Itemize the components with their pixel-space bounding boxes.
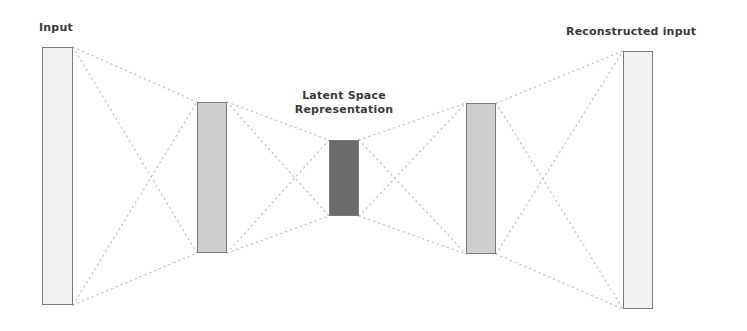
connector-line [227, 216, 329, 253]
connector-line [227, 102, 329, 216]
latent-layer [329, 140, 359, 216]
connector-line [73, 47, 197, 253]
connector-line [496, 254, 623, 309]
connector-line [359, 216, 466, 254]
output-layer [623, 51, 653, 309]
connector-line [359, 103, 466, 216]
connector-line [73, 47, 197, 102]
connector-line [496, 51, 623, 254]
encoder-hidden-layer [197, 102, 227, 253]
input-layer [42, 47, 73, 305]
reconstructed-input-label: Reconstructed input [566, 25, 696, 39]
connector-line [496, 51, 623, 103]
decoder-hidden-layer [466, 103, 496, 254]
input-label: Input [39, 21, 73, 35]
latent-label-line2: Representation [295, 103, 393, 117]
latent-label-line1: Latent Space [302, 89, 386, 103]
connector-line [359, 140, 466, 254]
connector-line [73, 253, 197, 305]
connector-line [73, 102, 197, 305]
connector-line [496, 103, 623, 309]
connector-line [227, 140, 329, 253]
autoencoder-diagram: Input Latent Space Representation Recons… [0, 0, 747, 331]
